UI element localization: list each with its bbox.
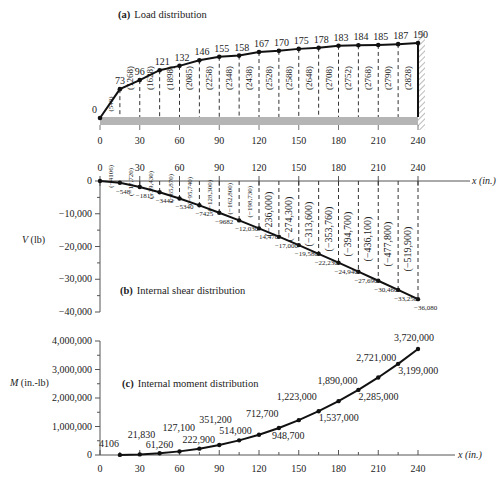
load-value-labels: 0739612113214615515816717017517818318418…: [92, 29, 428, 115]
x-tick: 60: [175, 162, 185, 173]
load-value: 184: [353, 31, 368, 42]
x-tick: 90: [214, 162, 224, 173]
moment-value: 3,199,000: [398, 365, 438, 376]
x-tick: 180: [331, 135, 346, 146]
load-point: [396, 42, 401, 47]
shear-value: −14,470: [255, 233, 279, 241]
load-point: [416, 41, 421, 46]
load-point: [118, 87, 123, 92]
x-tick: 0: [98, 162, 103, 173]
load-value: 132: [175, 52, 190, 63]
shear-value: −33,250: [394, 295, 418, 303]
x-tick: 0: [98, 135, 103, 146]
moment-value: 351,200: [199, 414, 232, 425]
x-tick: 150: [291, 135, 306, 146]
y-tick: 2,000,000: [52, 392, 92, 403]
moment-value: 1,537,000: [319, 412, 359, 423]
load-point: [237, 53, 242, 58]
x-tick: 150: [291, 162, 306, 173]
x-tick: 30: [135, 135, 145, 146]
load-value: 178: [314, 34, 329, 45]
load-value: 183: [334, 32, 349, 43]
x-tick: 60: [175, 463, 185, 474]
shear-y-ticks: 0−10,000−20,000−30,000−40,000: [59, 175, 100, 317]
moment-point: [138, 452, 142, 456]
moment-point: [197, 446, 201, 450]
load-point: [177, 64, 182, 69]
shear-segment-label: (−4106): [107, 164, 115, 187]
x-tick: 0: [98, 463, 103, 474]
beam: [100, 117, 418, 125]
shear-segment-labels: (−4106)(−17,720)(−39,430)(−65,870)(−95,7…: [107, 164, 414, 271]
load-segment-label: (2790): [383, 66, 393, 90]
shear-segment-label: (−519,900): [402, 227, 414, 272]
load-segment-label: (2828): [403, 66, 413, 90]
x-tick: 60: [175, 135, 185, 146]
y-tick: 0: [87, 175, 92, 186]
load-point: [137, 78, 142, 83]
moment-x-label: x (in.): [457, 449, 483, 461]
moment-y-ticks: 01,000,0002,000,0003,000,0004,000,000: [52, 335, 100, 460]
load-point: [257, 50, 262, 55]
load-x-ticks: 0306090120150180210240: [98, 125, 426, 146]
load-point: [98, 116, 103, 121]
fixed-support-wall: [418, 30, 425, 130]
load-value: 96: [135, 66, 145, 77]
shear-distribution-panel: x (in.) V (lb) 0−10,000−20,000−30,000−40…: [22, 162, 497, 317]
load-value: 0: [92, 104, 97, 115]
load-segment-label: (2085): [184, 66, 194, 90]
moment-value: 514,000: [219, 425, 252, 436]
moment-point: [257, 432, 261, 436]
shear-point: [138, 185, 142, 189]
moment-point: [336, 399, 340, 403]
load-segment-label: (2768): [363, 66, 373, 90]
moment-value: 3,720,000: [394, 332, 434, 343]
y-tick: −10,000: [59, 208, 92, 219]
load-segment-label: (2438): [244, 66, 254, 90]
shear-value: −1815: [136, 192, 154, 200]
load-segment-label: (2348): [224, 66, 234, 90]
shear-value: −3442: [156, 197, 174, 205]
shear-title: (b)Internal shear distribution: [120, 285, 246, 297]
x-tick: 210: [371, 162, 386, 173]
load-value: 187: [393, 30, 408, 41]
x-tick: 150: [291, 463, 306, 474]
x-tick: 90: [214, 463, 224, 474]
load-distribution-panel: (a)Load distribution (548)(1268)(1628)(1…: [92, 9, 428, 146]
shear-point: [237, 218, 241, 222]
load-point: [217, 54, 222, 59]
moment-point: [177, 449, 181, 453]
load-point: [356, 43, 361, 48]
y-tick: 1,000,000: [52, 421, 92, 432]
moment-value: 2,721,000: [356, 352, 396, 363]
load-segment-label: (2528): [264, 66, 274, 90]
shear-point: [118, 181, 122, 185]
moment-point: [297, 418, 301, 422]
load-point: [376, 43, 381, 48]
moment-point: [118, 453, 122, 457]
x-tick: 120: [252, 463, 267, 474]
shear-segment-label: (−274,300): [283, 197, 295, 242]
shear-segment-label: (−436,100): [362, 217, 374, 262]
load-segment-label: (2708): [324, 66, 334, 90]
x-tick: 240: [411, 463, 426, 474]
y-tick: −20,000: [59, 241, 92, 252]
moment-value: 2,285,000: [358, 391, 398, 402]
moment-point: [237, 438, 241, 442]
shear-point: [98, 179, 102, 183]
shear-point: [197, 203, 201, 207]
load-point: [316, 45, 321, 50]
load-point: [157, 68, 162, 73]
load-point: [197, 58, 202, 63]
shear-point: [157, 190, 161, 194]
shear-segment-label: (−198,730): [246, 185, 254, 217]
shear-value: −36,080: [414, 304, 438, 312]
shear-point: [217, 211, 221, 215]
shear-value: −9682: [215, 218, 233, 226]
moment-value: 948,700: [272, 430, 305, 441]
shear-value: −24,940: [335, 268, 359, 276]
moment-title: (c)Internal moment distribution: [122, 378, 259, 390]
shear-value: −5340: [176, 203, 194, 211]
moment-value: 1,890,000: [318, 375, 358, 386]
shear-value: −7425: [195, 210, 213, 218]
